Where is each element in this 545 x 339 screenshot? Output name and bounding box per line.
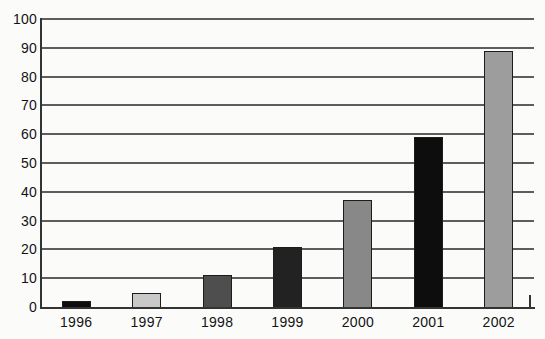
gridline-100 <box>41 18 534 20</box>
y-axis-tick-label-90: 90 <box>0 40 37 56</box>
y-axis-tick-label-50: 50 <box>0 155 37 171</box>
y-axis-tick-label-10: 10 <box>0 270 37 286</box>
bar-2000 <box>343 200 372 309</box>
y-axis-tick-label-60: 60 <box>0 126 37 142</box>
gridline-60 <box>41 133 534 135</box>
x-axis-tick-label-2000: 2000 <box>334 314 382 330</box>
plot-right-corner-tick <box>529 295 531 307</box>
x-axis-tick-label-1996: 1996 <box>52 314 100 330</box>
gridline-80 <box>41 76 534 78</box>
bar-1998 <box>203 275 232 309</box>
gridline-90 <box>41 47 534 49</box>
bar-1999 <box>273 247 302 309</box>
x-axis-tick-label-2001: 2001 <box>404 314 452 330</box>
y-axis-tick-label-30: 30 <box>0 213 37 229</box>
y-axis-tick-label-40: 40 <box>0 184 37 200</box>
gridline-40 <box>41 191 534 193</box>
y-axis-tick-label-80: 80 <box>0 69 37 85</box>
y-axis-line <box>40 18 42 309</box>
y-axis-tick-label-100: 100 <box>0 11 37 27</box>
x-axis-tick-label-2002: 2002 <box>475 314 523 330</box>
x-axis-tick-label-1997: 1997 <box>123 314 171 330</box>
bar-2002 <box>484 51 513 309</box>
gridline-70 <box>41 104 534 106</box>
x-axis-line <box>40 307 535 309</box>
y-axis-tick-label-20: 20 <box>0 241 37 257</box>
bar-chart: 0102030405060708090100199619971998199920… <box>0 0 545 339</box>
y-axis-tick-label-0: 0 <box>0 299 37 315</box>
x-axis-tick-label-1998: 1998 <box>193 314 241 330</box>
x-axis-tick-label-1999: 1999 <box>264 314 312 330</box>
y-axis-tick-label-70: 70 <box>0 97 37 113</box>
gridline-50 <box>41 162 534 164</box>
gridline-30 <box>41 220 534 222</box>
bar-2001 <box>414 137 443 309</box>
